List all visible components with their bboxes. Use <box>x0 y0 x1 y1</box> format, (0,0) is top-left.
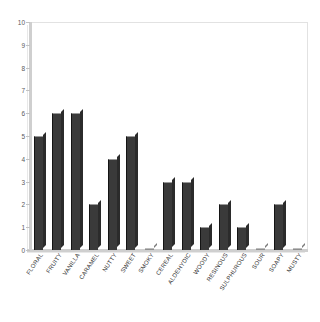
bar-zero <box>256 248 265 251</box>
y-axis-tick-mark <box>26 250 30 251</box>
bar-slot <box>143 22 162 250</box>
x-axis-tick-label: CARAMEL <box>78 252 100 281</box>
bar <box>89 204 98 250</box>
bar-slot <box>69 22 88 250</box>
bar <box>71 113 80 250</box>
bar-slot <box>106 22 125 250</box>
bar <box>108 159 117 250</box>
bar <box>200 227 209 250</box>
y-axis-tick-label: 10 <box>8 19 25 26</box>
x-axis-tick-label: SOAPY <box>268 252 285 273</box>
bar-zero <box>293 248 302 251</box>
bar <box>52 113 61 250</box>
bar-slot <box>217 22 236 250</box>
bar <box>126 136 135 250</box>
y-axis-tick-label: 2 <box>8 201 25 208</box>
y-axis-tick-label: 7 <box>8 87 25 94</box>
y-axis-tick-label: 4 <box>8 155 25 162</box>
x-axis-tick-label: CEREAL <box>155 252 174 276</box>
x-axis-tick-label: WOODY <box>192 252 211 276</box>
y-axis-tick-label: 3 <box>8 178 25 185</box>
x-axis-tick-label: NUTTY <box>101 252 118 273</box>
bar <box>237 227 246 250</box>
x-axis-tick-label: SOUR <box>251 252 266 270</box>
y-axis-tick-label: 1 <box>8 224 25 231</box>
x-axis-tick-label: FLORAL <box>25 252 44 276</box>
bar <box>163 182 172 250</box>
y-axis-tick-label: 9 <box>8 41 25 48</box>
bar-slot <box>161 22 180 250</box>
x-axis-tick-label: MUSTY <box>286 252 303 274</box>
bar-slot <box>291 22 310 250</box>
bar-chart: 109876543210 FLORALFRUITYVANILLACARAMELN… <box>0 0 320 322</box>
x-axis-tick-label: VANILLA <box>62 252 81 277</box>
bar <box>182 182 191 250</box>
bar-slot <box>124 22 143 250</box>
y-axis-tick-label: 6 <box>8 110 25 117</box>
x-axis-tick-label: FRUITY <box>45 252 63 274</box>
x-axis-labels: FLORALFRUITYVANILLACARAMELNUTTYSWEETSMOK… <box>30 252 308 322</box>
x-axis-tick-label: SMOKY <box>138 252 156 274</box>
bar-slot <box>50 22 69 250</box>
bar-slot <box>235 22 254 250</box>
bar-slot <box>254 22 273 250</box>
bar-slot <box>87 22 106 250</box>
bar-slot <box>180 22 199 250</box>
y-axis-tick-label: 5 <box>8 133 25 140</box>
bar <box>34 136 43 250</box>
bar-slot <box>32 22 51 250</box>
bar-slot <box>198 22 217 250</box>
bar <box>274 204 283 250</box>
y-axis-tick-label: 8 <box>8 64 25 71</box>
y-axis-tick-label: 0 <box>8 247 25 254</box>
x-axis-tick-label: SWEET <box>119 252 136 274</box>
bar-slot <box>272 22 291 250</box>
bar-zero <box>145 248 154 251</box>
bar <box>219 204 228 250</box>
bars-layer <box>30 22 308 250</box>
